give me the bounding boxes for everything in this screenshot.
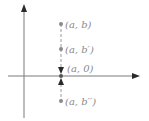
point-a-bprime bbox=[59, 47, 63, 51]
arrow-up-icon bbox=[58, 78, 64, 85]
y-axis-arrowhead-icon bbox=[21, 4, 27, 12]
arrow-down-icon bbox=[58, 67, 64, 74]
label-a-bdoubleprime: (a, b′′) bbox=[65, 96, 96, 107]
point-a-b bbox=[59, 22, 63, 26]
point-a-bdoubleprime bbox=[59, 99, 63, 103]
label-a-bprime: (a, b′) bbox=[65, 44, 94, 55]
label-a-b: (a, b) bbox=[65, 19, 92, 30]
diagram-canvas: (a, b) (a, b′) (a, 0) (a, b′′) bbox=[0, 0, 149, 121]
point-a-0 bbox=[59, 74, 63, 78]
x-axis-arrowhead-icon bbox=[132, 73, 140, 79]
label-a-0: (a, 0) bbox=[67, 63, 94, 74]
